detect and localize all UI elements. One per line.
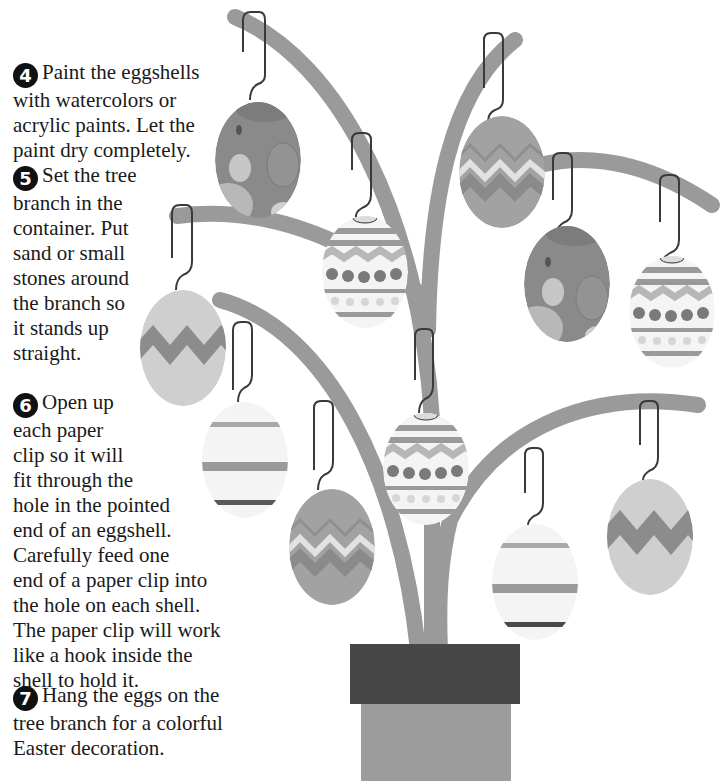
step-text: Hang the eggs on the [42,683,219,707]
step-text: end of an eggshell. [13,518,221,543]
step-text: Set the tree [42,163,136,187]
step-text: sand or small [13,241,136,266]
egg-zigzag-stripes [455,116,548,228]
step-text: fit through the [13,468,221,493]
step-text: Paint the eggshells [42,60,199,84]
instruction-step-7: 7Hang the eggs on the tree branch for a … [13,683,223,761]
step-text: Carefully feed one [13,543,221,568]
step-5-line-1: 5Set the tree [13,163,136,191]
circled-number-7-icon: 7 [13,686,38,711]
flower-pot [350,644,520,781]
step-text: end of a paper clip into [13,568,221,593]
step-text: hole in the pointed [13,493,221,518]
step-text: tree branch for a colorful [13,711,223,736]
step-text: the hole on each shell. [13,593,221,618]
step-text: acrylic paints. Let the [13,113,199,138]
step-text: straight. [13,341,136,366]
instruction-step-5: 5Set the tree branch in the container. P… [13,163,136,366]
step-4-line-1: 4Paint the eggshells [13,60,199,88]
instruction-step-4: 4Paint the eggshells with watercolors or… [13,60,199,163]
step-text: container. Put [13,216,136,241]
egg-zigzag-stripes [285,489,378,605]
egg-polka-dot [513,218,610,350]
circled-number-6-icon: 6 [13,393,38,418]
step-text: branch in the [13,191,136,216]
egg-zigzag-dots [627,253,723,368]
step-text: stones around [13,266,136,291]
step-text: with watercolors or [13,88,199,113]
step-text: the branch so [13,291,136,316]
instruction-step-6: 6Open up each paper clip so it will fit … [13,390,221,693]
step-7-line-1: 7Hang the eggs on the [13,683,223,711]
step-text: clip so it will [13,443,221,468]
step-text: like a hook inside the [13,643,221,668]
egg-stripes [490,524,580,640]
step-text: it stands up [13,316,136,341]
circled-number-5-icon: 5 [13,166,38,191]
circled-number-4-icon: 4 [13,63,38,88]
step-text: Easter decoration. [13,736,223,761]
step-text: The paper clip will work [13,618,221,643]
step-text: paint dry completely. [13,138,199,163]
step-text: Open up [42,390,114,414]
step-6-line-1: 6Open up [13,390,221,418]
step-text: each paper [13,418,221,443]
egg-zigzag [602,479,700,595]
